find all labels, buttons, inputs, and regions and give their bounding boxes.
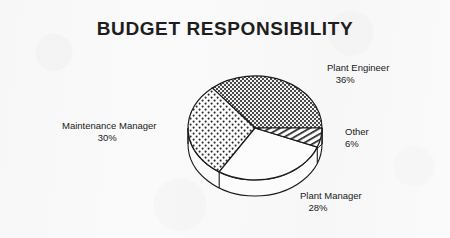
slice-label-maintenance-manager-percent: 30% xyxy=(62,132,157,144)
slice-label-plant-manager: Plant Manager 28% xyxy=(300,190,362,213)
slice-label-plant-engineer-name: Plant Engineer xyxy=(327,62,389,74)
slice-label-other-percent: 6% xyxy=(345,138,377,150)
slice-label-maintenance-manager-name: Maintenance Manager xyxy=(62,120,157,132)
slice-label-plant-engineer: Plant Engineer 36% xyxy=(327,62,389,85)
chart-page: BUDGET RESPONSIBILITY xyxy=(0,0,450,238)
pie-chart-graphic xyxy=(0,0,450,238)
slice-label-other: Other 6% xyxy=(345,126,377,149)
slice-label-maintenance-manager: Maintenance Manager 30% xyxy=(62,120,157,143)
pie-top-face xyxy=(188,76,322,180)
slice-label-plant-engineer-percent: 36% xyxy=(327,74,389,86)
slice-label-plant-manager-name: Plant Manager xyxy=(300,190,362,202)
slice-label-plant-manager-percent: 28% xyxy=(300,202,362,214)
slice-label-other-name: Other xyxy=(345,126,377,138)
